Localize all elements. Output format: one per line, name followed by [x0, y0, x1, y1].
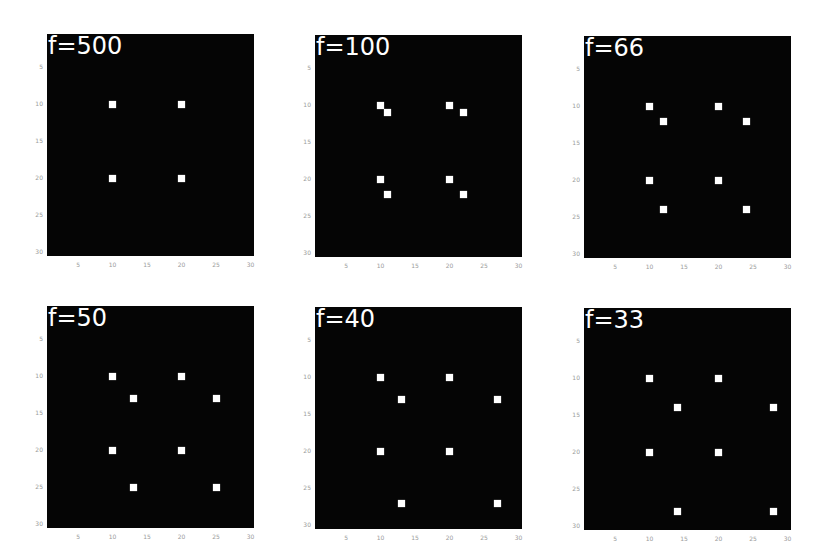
x-tick-label: 25 — [749, 536, 757, 542]
data-point — [770, 508, 777, 515]
data-point — [178, 373, 185, 380]
plot-panel-3: f=66 — [584, 36, 791, 258]
x-tick-label: 25 — [212, 262, 220, 268]
x-tick-label: 25 — [212, 534, 220, 540]
y-tick-label: 15 — [299, 411, 311, 417]
data-point — [178, 447, 185, 454]
x-tick-label: 15 — [411, 535, 419, 541]
data-point — [377, 102, 384, 109]
x-tick-label: 25 — [480, 263, 488, 269]
data-point — [213, 395, 220, 402]
x-tick-label: 15 — [143, 262, 151, 268]
y-tick-label: 25 — [31, 484, 43, 490]
data-point — [213, 484, 220, 491]
y-tick-label: 5 — [31, 336, 43, 342]
data-point — [494, 500, 501, 507]
x-tick-label: 30 — [515, 263, 523, 269]
x-tick-label: 20 — [715, 536, 723, 542]
y-tick-label: 15 — [299, 139, 311, 145]
data-point — [715, 449, 722, 456]
y-tick-label: 25 — [299, 213, 311, 219]
y-tick-label: 15 — [568, 412, 580, 418]
data-point — [660, 206, 667, 213]
x-tick-label: 30 — [784, 536, 792, 542]
data-point — [109, 101, 116, 108]
plot-panel-6: f=33 — [584, 308, 791, 530]
data-point — [743, 206, 750, 213]
data-point — [446, 448, 453, 455]
data-point — [377, 176, 384, 183]
panel-title: f=66 — [585, 36, 644, 61]
x-tick-label: 5 — [613, 264, 617, 270]
x-tick-label: 30 — [247, 534, 255, 540]
data-point — [743, 118, 750, 125]
y-tick-label: 25 — [568, 486, 580, 492]
x-tick-label: 20 — [446, 535, 454, 541]
x-tick-label: 10 — [646, 536, 654, 542]
data-point — [109, 373, 116, 380]
data-point — [460, 109, 467, 116]
x-tick-label: 30 — [247, 262, 255, 268]
x-tick-label: 15 — [411, 263, 419, 269]
y-tick-label: 5 — [299, 337, 311, 343]
y-tick-label: 10 — [568, 375, 580, 381]
x-tick-label: 30 — [784, 264, 792, 270]
y-tick-label: 10 — [568, 103, 580, 109]
x-tick-label: 20 — [715, 264, 723, 270]
y-tick-label: 30 — [568, 251, 580, 257]
y-tick-label: 25 — [568, 214, 580, 220]
y-tick-label: 5 — [31, 64, 43, 70]
y-tick-label: 20 — [31, 447, 43, 453]
data-point — [646, 177, 653, 184]
data-point — [377, 374, 384, 381]
y-tick-label: 30 — [31, 249, 43, 255]
y-tick-label: 25 — [299, 485, 311, 491]
data-point — [178, 175, 185, 182]
data-point — [660, 118, 667, 125]
x-tick-label: 10 — [377, 535, 385, 541]
x-tick-label: 5 — [76, 262, 80, 268]
data-point — [446, 176, 453, 183]
y-tick-label: 20 — [299, 176, 311, 182]
y-tick-label: 20 — [31, 175, 43, 181]
y-tick-label: 30 — [299, 522, 311, 528]
y-tick-label: 10 — [31, 373, 43, 379]
data-point — [715, 177, 722, 184]
data-point — [460, 191, 467, 198]
x-tick-label: 20 — [178, 262, 186, 268]
plot-panel-5: f=40 — [315, 307, 522, 529]
y-tick-label: 10 — [31, 101, 43, 107]
y-tick-label: 5 — [299, 65, 311, 71]
x-tick-label: 5 — [76, 534, 80, 540]
x-tick-label: 5 — [344, 263, 348, 269]
y-tick-label: 30 — [31, 521, 43, 527]
x-tick-label: 25 — [749, 264, 757, 270]
y-tick-label: 20 — [568, 177, 580, 183]
data-point — [646, 103, 653, 110]
x-tick-label: 25 — [480, 535, 488, 541]
x-tick-label: 15 — [680, 264, 688, 270]
data-point — [130, 395, 137, 402]
data-point — [770, 404, 777, 411]
y-tick-label: 10 — [299, 102, 311, 108]
data-point — [446, 374, 453, 381]
data-point — [674, 404, 681, 411]
panel-title: f=500 — [48, 34, 122, 59]
x-tick-label: 10 — [646, 264, 654, 270]
y-tick-label: 30 — [568, 523, 580, 529]
y-tick-label: 25 — [31, 212, 43, 218]
x-tick-label: 10 — [109, 534, 117, 540]
data-point — [646, 375, 653, 382]
x-tick-label: 30 — [515, 535, 523, 541]
data-point — [674, 508, 681, 515]
x-tick-label: 10 — [109, 262, 117, 268]
y-tick-label: 5 — [568, 66, 580, 72]
panel-title: f=100 — [316, 35, 390, 60]
data-point — [377, 448, 384, 455]
data-point — [178, 101, 185, 108]
plot-panel-1: f=500 — [47, 34, 254, 256]
y-tick-label: 15 — [31, 410, 43, 416]
data-point — [715, 103, 722, 110]
data-point — [109, 175, 116, 182]
data-point — [109, 447, 116, 454]
